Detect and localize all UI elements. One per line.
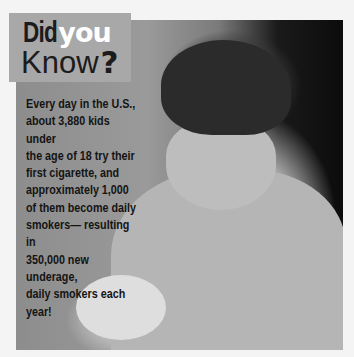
fact-line: daily smokers each (26, 286, 138, 303)
title-line-2: Know? (21, 47, 119, 78)
did-you-know-title-box: Didyou Know? (9, 13, 131, 82)
question-mark-icon: ? (101, 44, 119, 80)
fact-line: of them become daily (26, 200, 138, 217)
hair-shape (161, 40, 291, 135)
fact-line: year! (26, 304, 138, 321)
fact-line: smokers— resulting in (26, 217, 138, 252)
title-word-know: Know (21, 45, 99, 80)
fact-line: the age of 18 try their (26, 148, 138, 165)
fact-line: first cigarette, and (26, 165, 138, 182)
fact-line: 350,000 new underage, (26, 252, 138, 287)
title-word-did: Did (23, 17, 57, 47)
fact-line: approximately 1,000 (26, 182, 138, 199)
title-line-1: Didyou (23, 17, 111, 48)
fact-line: about 3,880 kids under (26, 113, 138, 148)
fact-line: Every day in the U.S., (26, 96, 138, 113)
fact-text: Every day in the U.S., about 3,880 kids … (26, 96, 138, 321)
